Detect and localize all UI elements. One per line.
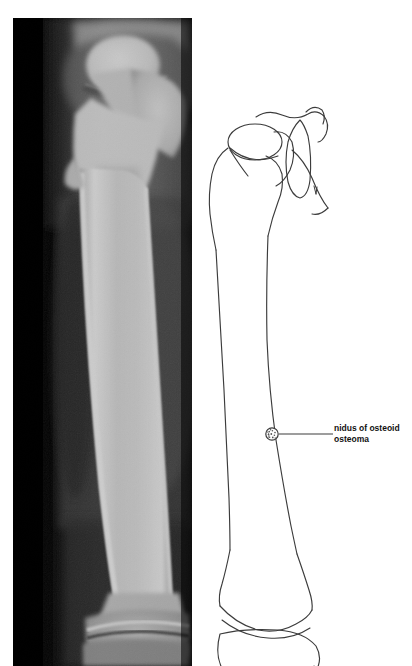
patella-outline (218, 630, 320, 666)
acetabular-rim-loop (286, 120, 311, 198)
label-line-1: nidus of osteoid (334, 423, 412, 434)
distal-lateral-flare (297, 554, 312, 610)
femoral-neck-medial-edge (209, 148, 228, 250)
trochanter-inner-edge (266, 156, 283, 236)
shaft-medial-cortex (216, 250, 230, 550)
nidus-marker (266, 428, 278, 440)
pelvis-lateral-edge (318, 116, 328, 142)
lesser-trochanter-tip (312, 208, 328, 214)
pelvis-outline (256, 112, 324, 118)
shaft-lateral-cortex (267, 236, 297, 554)
femur-radiograph (13, 18, 192, 666)
radiograph-image (13, 18, 192, 666)
pelvis-notch (306, 107, 324, 124)
distal-medial-flare (219, 550, 230, 606)
figure-root: nidus of osteoid osteoma (0, 0, 412, 666)
line-diagram-drawing (196, 90, 412, 590)
greater-trochanter-outline (274, 132, 294, 186)
femur-line-diagram (196, 90, 412, 590)
label-line-2: osteoma (334, 434, 412, 445)
nidus-annotation-label: nidus of osteoid osteoma (334, 423, 412, 444)
femoral-head-outline (228, 124, 282, 160)
